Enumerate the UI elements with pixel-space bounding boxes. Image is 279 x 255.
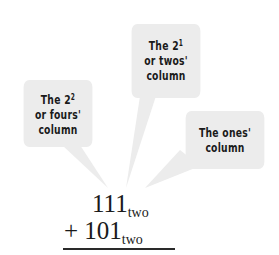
callout-line: or fours' — [24, 107, 93, 122]
sum-rule-line — [63, 248, 175, 250]
callout-line: column — [186, 140, 265, 155]
fours-bubble-tail — [62, 145, 108, 188]
twos-column-callout: The 21 or twos' column — [132, 24, 201, 98]
base-subscript: two — [122, 232, 143, 247]
exponent: 2 — [71, 93, 75, 102]
plus-sign: + — [64, 217, 78, 244]
callout-line: column — [132, 68, 201, 83]
fours-column-callout: The 22 or fours' column — [24, 80, 93, 147]
ones-column-callout: The ones' column — [186, 111, 265, 169]
callout-line: The 22 — [24, 92, 93, 107]
callout-line: The 21 — [132, 38, 201, 53]
first-addend: 111two — [92, 191, 149, 220]
exponent: 1 — [179, 39, 183, 48]
callout-line: The ones' — [186, 125, 265, 140]
callout-line: column — [24, 122, 93, 137]
twos-bubble-tail — [126, 96, 156, 188]
second-addend: + 101two — [64, 218, 143, 247]
callout-line: or twos' — [132, 53, 201, 68]
